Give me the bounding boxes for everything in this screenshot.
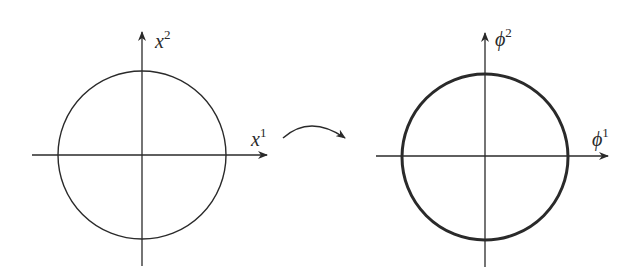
right-diagram: ϕ2 ϕ1 <box>376 25 609 267</box>
left-x-axis-label: x1 <box>250 125 266 150</box>
mapping-arrow <box>283 126 345 138</box>
left-y-axis-label: x2 <box>154 27 170 52</box>
right-x-axis-label: ϕ1 <box>592 125 609 151</box>
right-y-axis-label: ϕ2 <box>495 25 512 51</box>
left-diagram: x2 x1 <box>32 27 267 266</box>
curved-arrow-icon <box>283 126 345 138</box>
diagram-canvas: x2 x1 ϕ2 ϕ1 <box>0 0 644 274</box>
